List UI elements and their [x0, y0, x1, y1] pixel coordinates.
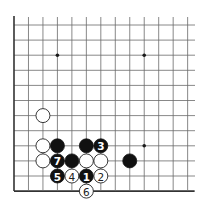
white-stone-icon — [79, 154, 93, 168]
star-point — [142, 144, 146, 148]
go-board-diagram: 3754126 — [0, 0, 209, 207]
white-stone — [36, 154, 50, 168]
black-stone-move-3: 3 — [94, 139, 108, 153]
black-stone — [123, 154, 137, 168]
white-stone — [79, 154, 93, 168]
black-stone-icon — [79, 139, 93, 153]
white-stone — [36, 109, 50, 123]
white-stone-move-4: 4 — [65, 169, 79, 183]
black-stone-icon — [123, 154, 137, 168]
move-number: 5 — [54, 171, 61, 183]
black-stone-move-5: 5 — [50, 169, 64, 183]
move-number: 3 — [97, 140, 104, 152]
white-stone-icon — [36, 109, 50, 123]
black-stone — [79, 139, 93, 153]
black-stone-move-1: 1 — [79, 169, 93, 183]
black-stone-move-7: 7 — [50, 154, 64, 168]
move-number: 4 — [69, 171, 76, 183]
black-stone-icon — [50, 139, 64, 153]
star-point — [142, 53, 146, 57]
white-stone-icon — [36, 139, 50, 153]
black-stone — [50, 139, 64, 153]
white-stone-move-2: 2 — [94, 169, 108, 183]
move-number: 2 — [97, 171, 104, 183]
white-stone — [36, 139, 50, 153]
white-stone-icon — [36, 154, 50, 168]
black-stone — [65, 154, 79, 168]
black-stone-icon — [65, 154, 79, 168]
white-stone-move-6: 6 — [79, 184, 93, 198]
white-stone — [94, 154, 108, 168]
star-point — [56, 53, 60, 57]
move-number: 7 — [54, 155, 61, 167]
move-number: 6 — [83, 186, 90, 198]
white-stone-icon — [94, 154, 108, 168]
move-number: 1 — [83, 171, 90, 183]
